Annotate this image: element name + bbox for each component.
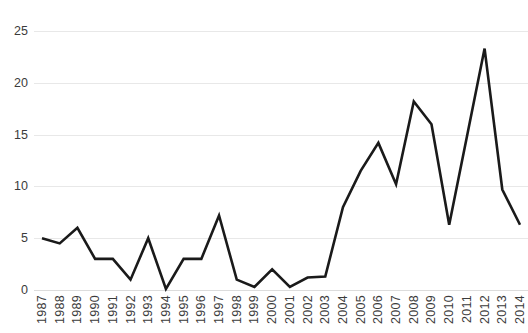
x-tick-label: 1998 xyxy=(231,295,244,324)
x-tick-label: 2010 xyxy=(443,295,456,324)
x-tick-label: 2014 xyxy=(514,295,527,324)
x-axis: 1987198819891990199119921993199419951996… xyxy=(34,292,528,333)
x-tick-label: 2009 xyxy=(425,295,438,324)
y-axis: 0510152025 xyxy=(0,0,28,333)
x-tick-label: 1988 xyxy=(54,295,67,324)
x-tick-label: 1994 xyxy=(160,295,173,324)
x-tick-label: 2002 xyxy=(302,295,315,324)
x-tick-label: 1995 xyxy=(178,295,191,324)
x-tick-label: 1996 xyxy=(195,295,208,324)
x-tick-label: 1999 xyxy=(248,295,261,324)
x-tick-label: 1992 xyxy=(125,295,138,324)
x-tick-label: 2012 xyxy=(479,295,492,324)
x-tick-label: 1993 xyxy=(142,295,155,324)
x-tick-label: 1991 xyxy=(107,295,120,324)
x-tick-label: 1997 xyxy=(213,295,226,324)
plot-area xyxy=(34,0,528,333)
y-tick-label: 20 xyxy=(14,77,28,90)
data-series-line xyxy=(42,49,520,289)
data-line-svg xyxy=(34,0,528,333)
x-tick-label: 2003 xyxy=(319,295,332,324)
y-tick-label: 25 xyxy=(14,25,28,38)
x-tick-label: 2013 xyxy=(496,295,509,324)
y-tick-label: 15 xyxy=(14,128,28,141)
y-tick-label: 10 xyxy=(14,180,28,193)
x-tick-label: 2000 xyxy=(266,295,279,324)
x-tick-label: 2001 xyxy=(284,295,297,324)
x-tick-label: 1989 xyxy=(71,295,84,324)
y-tick-label: 5 xyxy=(21,232,28,245)
x-tick-label: 1987 xyxy=(36,295,49,324)
y-tick-label: 0 xyxy=(21,284,28,297)
x-tick-label: 2004 xyxy=(337,295,350,324)
x-tick-label: 2008 xyxy=(408,295,421,324)
x-tick-label: 2011 xyxy=(461,295,474,323)
x-tick-label: 1990 xyxy=(89,295,102,324)
x-tick-label: 2006 xyxy=(372,295,385,324)
line-chart: 0510152025 19871988198919901991199219931… xyxy=(0,0,528,333)
x-tick-label: 2005 xyxy=(355,295,368,324)
x-tick-label: 2007 xyxy=(390,295,403,324)
